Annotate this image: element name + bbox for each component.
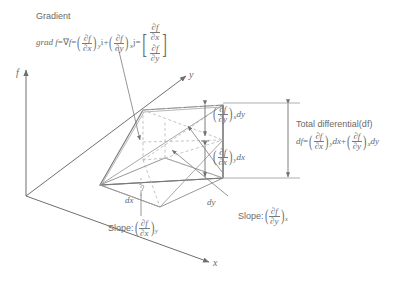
slope-x-text: Slope:: [108, 223, 134, 233]
gradient-term1-frac: ∂f∂x: [82, 34, 92, 53]
colvec-row-0: ∂f∂x: [150, 23, 160, 42]
td-term1-denominator: ∂x: [314, 142, 324, 151]
td-term2-frac: ∂f∂y: [352, 132, 362, 151]
slope-y-subscript: x: [285, 215, 288, 222]
seg-lower-diff: dx: [236, 152, 245, 162]
td-term2-diff: dy: [371, 136, 380, 146]
seg-upper-frac: ∂f∂y: [218, 105, 228, 124]
increment-label-dy: dy: [207, 198, 216, 207]
gradient-total-differential-figure: f y x Gradient grad f=∇f=(∂f∂x)yi+(∂f∂y)…: [0, 0, 393, 288]
axis-label-f: f: [16, 68, 19, 79]
slope-label-x: Slope:(∂f∂x)y: [108, 219, 158, 238]
slope-x-paren-close: ): [151, 223, 154, 233]
bracket-close: ]: [163, 38, 168, 50]
seg-upper-denominator: ∂y: [218, 115, 228, 124]
slope-label-y: Slope:(∂f∂y)x: [238, 207, 288, 226]
td-paren-close-2: ): [363, 137, 366, 147]
right-angle-marker: [139, 178, 144, 197]
slope-x-subscript: y: [155, 227, 158, 234]
axis-label-x: x: [213, 258, 217, 269]
total-differential-annotation: Total differential(df) df=(∂f∂x)ydx+(∂f∂…: [296, 120, 379, 151]
colvec-row-1-denominator: ∂y: [150, 54, 160, 63]
total-differential-equation: df=(∂f∂x)ydx+(∂f∂y)xdy: [296, 132, 379, 151]
td-term1-diff: dx: [333, 136, 342, 146]
seg-upper-paren-close: ): [229, 109, 232, 119]
seg-lower-paren-open: (: [213, 152, 216, 162]
dash-diag-a: [143, 110, 223, 140]
colvec-row-0-denominator: ∂x: [150, 33, 160, 42]
paren-close-1: ): [93, 38, 96, 48]
segment-label-upper: (∂f∂y)xdy: [212, 105, 245, 124]
seg-upper-paren-open: (: [213, 109, 216, 119]
bracket-open: [: [143, 38, 148, 50]
seg-lower-paren-close: ): [229, 152, 232, 162]
slope-y-text: Slope:: [238, 211, 264, 221]
leader-lines: [118, 47, 228, 216]
td-paren-close-1: ): [325, 137, 328, 147]
td-paren-open-2: (: [347, 137, 350, 147]
segment-label-lower: (∂f∂x)ydx: [212, 148, 245, 167]
slope-y-denominator: ∂y: [269, 217, 279, 226]
slope-y-paren-close: ): [281, 211, 284, 221]
gradient-formula: grad f=∇f=(∂f∂x)yi+(∂f∂y)xj=[ ∂f∂x ∂f∂y …: [36, 23, 170, 63]
gradient-term2-denominator: ∂y: [114, 44, 124, 53]
td-term2-denominator: ∂y: [352, 142, 362, 151]
td-plus: +: [341, 136, 346, 146]
gradient-term1-denominator: ∂x: [82, 44, 92, 53]
gradient-title: Gradient: [36, 12, 170, 21]
dash-mid-horizontal: [143, 140, 223, 142]
td-eq: =: [303, 136, 308, 146]
gradient-eq2: =: [71, 38, 76, 48]
slope-y-paren-open: (: [265, 211, 268, 221]
seg-lower-denominator: ∂x: [218, 158, 228, 167]
slope-x-frac: ∂f∂x: [139, 219, 149, 238]
colvec-row-1: ∂f∂y: [150, 44, 160, 63]
gradient-annotation: Gradient grad f=∇f=(∂f∂x)yi+(∂f∂y)xj=[ ∂…: [36, 12, 170, 63]
seg-upper-diff: dy: [236, 109, 245, 119]
td-lhs: df: [296, 136, 303, 146]
td-paren-open-1: (: [309, 137, 312, 147]
gradient-column-vector: ∂f∂x ∂f∂y: [150, 23, 160, 63]
gradient-lhs: grad f: [36, 38, 58, 48]
slope-y-frac: ∂f∂y: [269, 207, 279, 226]
paren-open-1: (: [77, 38, 80, 48]
gradient-plus: +: [103, 38, 108, 48]
dash-base-to-corner: [143, 160, 160, 207]
gradient-eq3: =: [135, 38, 140, 48]
slope-x-denominator: ∂x: [139, 229, 149, 238]
axis-y-line: [26, 76, 186, 196]
construction-lines: [143, 105, 223, 207]
gradient-term2-frac: ∂f∂y: [114, 34, 124, 53]
total-differential-title: Total differential(df): [296, 120, 379, 129]
increment-label-dx: dx: [125, 196, 134, 205]
paren-open-2: (: [110, 38, 113, 48]
td-term1-frac: ∂f∂x: [314, 132, 324, 151]
seg-lower-frac: ∂f∂x: [218, 148, 228, 167]
slope-x-paren-open: (: [135, 223, 138, 233]
axis-label-y: y: [189, 70, 193, 81]
paren-close-2: ): [126, 38, 129, 48]
wedge-edge-front: [100, 178, 223, 185]
